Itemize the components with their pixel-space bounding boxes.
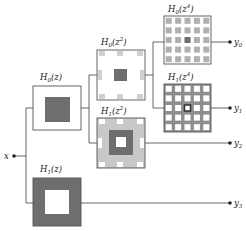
pattern-cell — [175, 18, 181, 24]
pattern-cell — [185, 27, 191, 33]
tile — [117, 162, 123, 167]
tile — [98, 138, 102, 148]
tile — [117, 51, 123, 56]
output-node-dot-y3 — [228, 201, 232, 205]
filter-h1z — [33, 178, 81, 226]
tile — [137, 119, 143, 124]
pattern-cell — [203, 124, 209, 130]
tile — [99, 94, 105, 99]
filter-label-h1z: H1(z) — [39, 164, 62, 175]
pattern-cell — [194, 37, 200, 43]
pattern-cell — [175, 86, 181, 92]
output-node-dot-y1 — [228, 106, 232, 110]
tile — [137, 162, 143, 167]
filter-label-h1z2: H1(z2) — [100, 105, 127, 117]
pattern-cell — [185, 86, 191, 92]
pattern-cell — [194, 95, 200, 101]
pattern-cell — [185, 115, 191, 121]
output-label-y3: y3 — [233, 198, 243, 209]
filter-label-h1z4: H1(z4) — [167, 71, 194, 83]
tile — [117, 94, 123, 99]
h0z4-center-cell — [185, 37, 191, 43]
pattern-cell — [203, 47, 209, 53]
pattern-cell — [185, 56, 191, 62]
filter-label-h0z2: H0(z2) — [100, 36, 127, 48]
pattern-cell — [166, 105, 172, 111]
tile — [99, 119, 105, 124]
pattern-cell — [194, 124, 200, 130]
pattern-cell — [166, 37, 172, 43]
pattern-cell — [166, 124, 172, 130]
pattern-cell — [194, 47, 200, 53]
tile — [137, 94, 143, 99]
pattern-cell — [194, 18, 200, 24]
pattern-cell — [166, 56, 172, 62]
tile — [140, 70, 144, 80]
filter-label-h0z4: H0(z4) — [167, 3, 194, 15]
output-label-y2: y2 — [233, 138, 243, 149]
pattern-cell — [203, 56, 209, 62]
pattern-cell — [185, 18, 191, 24]
pattern-cell — [166, 18, 172, 24]
pattern-cell — [203, 37, 209, 43]
pattern-cell — [166, 95, 172, 101]
pattern-cell — [194, 115, 200, 121]
pattern-cell — [175, 105, 181, 111]
filter-h1z2 — [97, 118, 145, 168]
filter-h0z — [33, 86, 81, 130]
pattern-cell — [194, 105, 200, 111]
pattern-cell — [166, 27, 172, 33]
pattern-cell — [175, 95, 181, 101]
pattern-cell — [203, 18, 209, 24]
filter-h1z4 — [164, 84, 211, 132]
pattern-cell — [175, 47, 181, 53]
tile — [99, 162, 105, 167]
pattern-cell — [175, 27, 181, 33]
input-label-x: x — [4, 151, 9, 161]
tile — [137, 51, 143, 56]
filter-h0z-center — [45, 97, 70, 122]
pattern-cell — [194, 56, 200, 62]
output-label-y0: y0 — [233, 37, 243, 48]
pattern-cell — [194, 86, 200, 92]
pattern-cell — [203, 95, 209, 101]
filter-h0z4 — [164, 16, 211, 64]
tile — [117, 119, 123, 124]
pattern-cell — [203, 115, 209, 121]
tile — [99, 51, 105, 56]
pattern-cell — [166, 86, 172, 92]
pattern-cell — [175, 124, 181, 130]
filter-h0z2-center — [114, 69, 127, 81]
pattern-cell — [203, 27, 209, 33]
pattern-cell — [175, 56, 181, 62]
pattern-cell — [203, 105, 209, 111]
filter-label-h0z: H0(z) — [39, 72, 62, 83]
pattern-cell — [203, 86, 209, 92]
filter-h1z-center — [45, 190, 69, 214]
filter-h1z2-center — [116, 137, 126, 147]
output-node-dot-y2 — [228, 141, 232, 145]
pattern-cell — [185, 124, 191, 130]
output-node-dot-y0 — [228, 40, 232, 44]
pattern-cell — [175, 115, 181, 121]
pattern-cell — [175, 37, 181, 43]
tile — [140, 138, 144, 148]
pattern-cell — [185, 47, 191, 53]
output-label-y1: y1 — [233, 103, 242, 114]
pattern-cell — [194, 27, 200, 33]
input-node-dot — [12, 154, 16, 158]
pattern-cell — [166, 115, 172, 121]
filter-bank-diagram: H0(z) H1(z) H0(z2) H1(z2) H0(z4) H1(z4) … — [0, 0, 246, 231]
h1z4-center-cell — [185, 105, 191, 111]
filter-h0z2 — [97, 50, 145, 100]
pattern-cell — [166, 47, 172, 53]
pattern-cell — [185, 95, 191, 101]
tile — [98, 70, 102, 80]
